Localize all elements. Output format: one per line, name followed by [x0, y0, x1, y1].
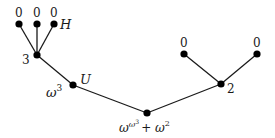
edge	[19, 24, 37, 55]
node-node2	[217, 80, 224, 87]
ordinal-tree-diagram: 0 0 0 H 3 U ω3 ωω3+ ω2 2 0 0	[0, 0, 275, 138]
node-leaf4	[180, 50, 187, 57]
label-h: H	[59, 17, 72, 32]
node-leaf1	[15, 20, 22, 27]
label-node3: 3	[22, 53, 30, 67]
root-plus-sup: 2	[165, 119, 170, 128]
edge	[184, 54, 221, 84]
edge	[221, 54, 257, 84]
node-omega3	[69, 81, 76, 88]
node-leaf3	[50, 20, 57, 27]
label-leaf4: 0	[180, 36, 188, 50]
root-plus: + ω	[141, 121, 165, 135]
label-root: ωω3+ ω2	[119, 118, 170, 135]
label-leaf5: 0	[253, 36, 261, 50]
label-u: U	[80, 72, 92, 87]
edge	[37, 55, 73, 85]
label-node2: 2	[227, 82, 235, 96]
label-leaf1: 0	[15, 6, 23, 20]
edge	[73, 85, 147, 113]
label-leaf3: 0	[50, 6, 58, 20]
label-leaf2: 0	[33, 6, 41, 20]
edge	[147, 84, 221, 113]
tree-svg: 0 0 0 H 3 U ω3 ωω3+ ω2 2 0 0	[0, 0, 275, 138]
node-leaf2	[33, 20, 40, 27]
label-omega3: ω3	[46, 83, 63, 100]
node-node3	[33, 51, 40, 58]
nodes	[15, 20, 260, 116]
node-root	[143, 109, 150, 116]
root-base: ω	[119, 121, 129, 135]
omega3-sup: 3	[57, 83, 63, 93]
omega3-base: ω	[46, 85, 57, 100]
node-leaf5	[253, 50, 260, 57]
edge	[37, 24, 54, 55]
root-sup2: 3	[135, 118, 139, 125]
